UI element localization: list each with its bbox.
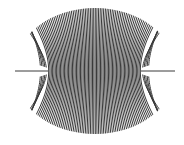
outer-field-line (14, 77, 40, 145)
field-lines-svg (0, 0, 184, 144)
outer-field-line (4, 75, 46, 145)
field-line (96, 1, 97, 141)
outer-field-line (147, 0, 176, 66)
outer-field-line (13, 76, 42, 144)
field-line-diagram (0, 0, 184, 144)
outer-field-line (4, 0, 46, 68)
outer-field-line (13, 0, 42, 66)
field-line (92, 1, 93, 141)
outer-field-line (147, 76, 176, 144)
outer-field-line (149, 77, 175, 145)
outer-field-line (14, 0, 40, 66)
field-lines (4, 0, 184, 144)
outer-field-line (149, 0, 175, 66)
